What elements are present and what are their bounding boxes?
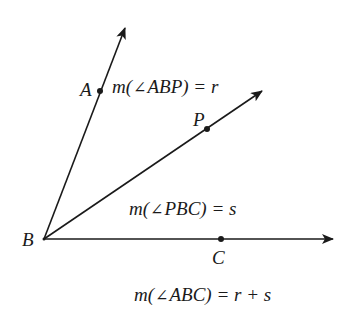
angle-symbol: ∠: [155, 287, 168, 304]
equation-angle-pbc: m(∠PBC) = s: [129, 199, 236, 218]
eq-suffix: ) = r: [182, 76, 218, 97]
label-point-p: P: [193, 110, 205, 129]
point-a-dot: [97, 88, 103, 94]
label-point-a: A: [80, 80, 92, 99]
eq-suffix: ) = s: [200, 198, 236, 219]
angle-diagram: [0, 0, 348, 327]
eq-angle-name: ABP: [147, 76, 182, 97]
angle-symbol: ∠: [133, 79, 146, 96]
ray-ba: [44, 28, 125, 239]
label-point-c: C: [212, 248, 225, 267]
point-b-dot: [43, 238, 46, 241]
equation-angle-abp: m(∠ABP) = r: [112, 77, 218, 96]
point-c-dot: [218, 236, 224, 242]
eq-prefix: m(: [129, 198, 149, 219]
equation-angle-abc: m(∠ABC) = r + s: [134, 285, 271, 304]
eq-suffix: ) = r + s: [205, 284, 271, 305]
label-point-b: B: [22, 230, 34, 249]
eq-angle-name: PBC: [164, 198, 200, 219]
eq-prefix: m(: [112, 76, 132, 97]
eq-angle-name: ABC: [169, 284, 205, 305]
eq-prefix: m(: [134, 284, 154, 305]
angle-symbol: ∠: [150, 201, 163, 218]
